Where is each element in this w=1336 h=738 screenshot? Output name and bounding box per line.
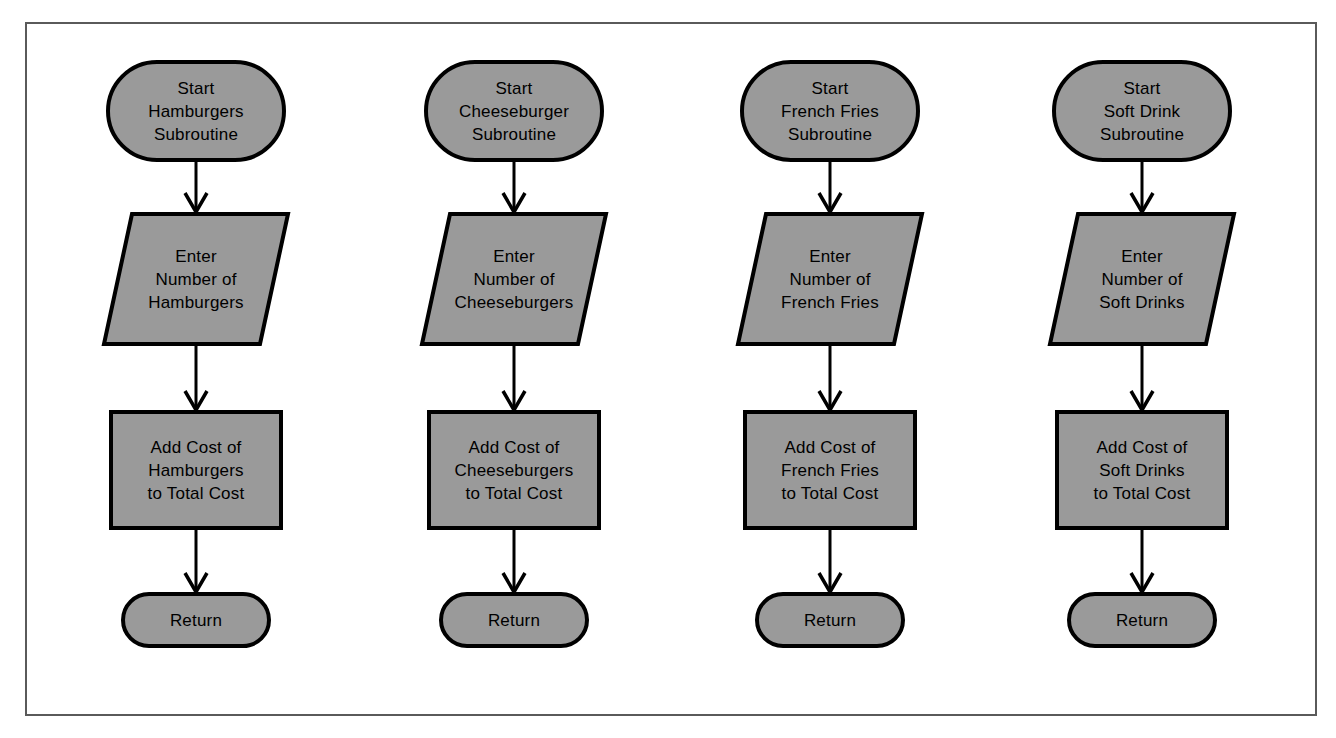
terminator-return-cheeseburgers[interactable] — [441, 594, 587, 646]
flowchart-shapes — [0, 0, 1336, 738]
process-rect-hamburgers[interactable] — [111, 412, 281, 528]
terminator-start-hamburgers[interactable] — [108, 62, 284, 160]
io-parallelogram-soft-drinks[interactable] — [1050, 214, 1234, 344]
process-rect-soft-drinks[interactable] — [1057, 412, 1227, 528]
terminator-return-hamburgers[interactable] — [123, 594, 269, 646]
terminator-start-soft-drinks[interactable] — [1054, 62, 1230, 160]
terminator-return-french-fries[interactable] — [757, 594, 903, 646]
terminator-start-cheeseburgers[interactable] — [426, 62, 602, 160]
terminator-start-french-fries[interactable] — [742, 62, 918, 160]
flowchart-canvas: StartHamburgersSubroutineEnterNumber ofH… — [0, 0, 1336, 738]
io-parallelogram-french-fries[interactable] — [738, 214, 922, 344]
process-rect-cheeseburgers[interactable] — [429, 412, 599, 528]
terminator-return-soft-drinks[interactable] — [1069, 594, 1215, 646]
io-parallelogram-hamburgers[interactable] — [104, 214, 288, 344]
process-rect-french-fries[interactable] — [745, 412, 915, 528]
io-parallelogram-cheeseburgers[interactable] — [422, 214, 606, 344]
